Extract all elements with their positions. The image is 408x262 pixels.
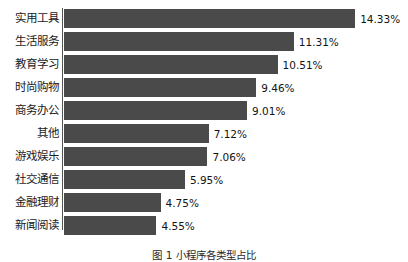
bar-track: 金融理财4.75% xyxy=(0,192,408,215)
bar-value-label: 9.46% xyxy=(261,81,294,95)
bar xyxy=(64,170,185,189)
category-label: 其他 xyxy=(0,126,59,141)
bar-track: 新闻阅读4.55% xyxy=(0,215,408,238)
bar-value-label: 7.12% xyxy=(214,127,247,141)
bar xyxy=(64,216,156,235)
category-label: 社交通信 xyxy=(0,172,59,187)
category-label: 生活服务 xyxy=(0,34,59,49)
bar-value-label: 10.51% xyxy=(283,58,323,72)
bar-track: 社交通信5.95% xyxy=(0,169,408,192)
bar-value-label: 11.31% xyxy=(299,35,339,49)
category-label: 教育学习 xyxy=(0,57,59,72)
bar-track: 商务办公9.01% xyxy=(0,100,408,123)
bar xyxy=(64,124,209,143)
bar xyxy=(64,32,294,51)
bar-value-label: 4.55% xyxy=(161,219,194,233)
bar-track: 教育学习10.51% xyxy=(0,54,408,77)
bar-track: 生活服务11.31% xyxy=(0,31,408,54)
bar xyxy=(64,55,278,74)
bar-value-label: 14.33% xyxy=(360,12,400,26)
category-label: 实用工具 xyxy=(0,11,59,26)
category-label: 新闻阅读 xyxy=(0,218,59,233)
category-label: 时尚购物 xyxy=(0,80,59,95)
bar-value-label: 7.06% xyxy=(212,150,245,164)
bar xyxy=(64,101,247,120)
bar-track: 其他7.12% xyxy=(0,123,408,146)
bar xyxy=(64,9,355,28)
bar-track: 实用工具14.33% xyxy=(0,8,408,31)
bar-track: 游戏娱乐7.06% xyxy=(0,146,408,169)
bar xyxy=(64,78,256,97)
category-label: 金融理财 xyxy=(0,195,59,210)
bar-track: 时尚购物9.46% xyxy=(0,77,408,100)
category-label: 游戏娱乐 xyxy=(0,149,59,164)
category-label: 商务办公 xyxy=(0,103,59,118)
bar xyxy=(64,147,207,166)
plot-area: 实用工具14.33%生活服务11.31%教育学习10.51%时尚购物9.46%商… xyxy=(0,0,408,236)
figure-caption: 图 1 小程序各类型占比 xyxy=(0,248,408,262)
bar xyxy=(64,193,161,212)
bar-value-label: 9.01% xyxy=(252,104,285,118)
bar-value-label: 4.75% xyxy=(166,196,199,210)
bar-value-label: 5.95% xyxy=(190,173,223,187)
